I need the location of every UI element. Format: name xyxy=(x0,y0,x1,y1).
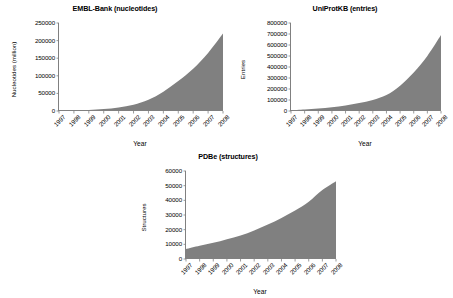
x-tick: 2004 xyxy=(275,262,289,276)
x-tick: 2002 xyxy=(248,262,262,276)
x-axis-label-uniprotkb: Year xyxy=(290,140,440,147)
x-tick: 2003 xyxy=(142,114,156,128)
area-series-uniprotkb xyxy=(291,23,441,111)
area-series-pdbe xyxy=(186,171,336,259)
area-series-embl-bank xyxy=(59,23,223,111)
x-tick: 2002 xyxy=(127,114,141,128)
x-tick: 2007 xyxy=(202,114,216,128)
x-tick: 1999 xyxy=(312,114,326,128)
x-tick: 1998 xyxy=(194,262,208,276)
chart-title-embl-bank: EMBL-Bank (nucleotides) xyxy=(20,4,210,13)
y-tick: 100000 xyxy=(35,73,55,79)
area-path-pdbe xyxy=(186,181,336,259)
y-tick: 40000 xyxy=(165,197,182,203)
chart-panel-pdbe: PDBe (structures) Structures 60000 50000… xyxy=(110,152,350,298)
y-tick-labels-pdbe: 60000 50000 40000 30000 20000 10000 0 xyxy=(110,171,182,259)
area-path-uniprotkb xyxy=(291,35,441,111)
chart-title-pdbe: PDBe (structures) xyxy=(138,152,318,161)
x-tick: 1999 xyxy=(207,262,221,276)
x-tick: 2006 xyxy=(187,114,201,128)
x-tick: 1999 xyxy=(83,114,97,128)
y-tick: 60000 xyxy=(165,168,182,174)
x-tick: 1997 xyxy=(180,262,194,276)
x-tick: 1997 xyxy=(53,114,67,128)
y-tick-labels-embl-bank: 250000 200000 150000 100000 50000 0 xyxy=(0,23,55,111)
y-tick: 50000 xyxy=(165,183,182,189)
x-tick: 1997 xyxy=(285,114,299,128)
y-tick: 20000 xyxy=(165,227,182,233)
x-tick: 2008 xyxy=(330,262,344,276)
x-tick: 2008 xyxy=(435,114,449,128)
plot-area-uniprotkb xyxy=(290,23,440,111)
x-tick: 2006 xyxy=(303,262,317,276)
y-tick: 100000 xyxy=(267,97,287,103)
y-tick: 0 xyxy=(52,108,55,114)
x-tick: 2004 xyxy=(380,114,394,128)
x-axis-label-embl-bank: Year xyxy=(58,140,222,147)
x-tick: 2005 xyxy=(289,262,303,276)
x-tick: 1998 xyxy=(299,114,313,128)
chart-title-uniprotkb: UniProtKB (entries) xyxy=(255,4,435,13)
y-tick: 30000 xyxy=(165,212,182,218)
plot-wrap-uniprotkb: Entries 800000 700000 600000 500000 4000… xyxy=(225,18,453,150)
plot-area-embl-bank xyxy=(58,23,222,111)
x-tick: 2001 xyxy=(113,114,127,128)
x-tick: 2000 xyxy=(221,262,235,276)
x-axis-label-pdbe: Year xyxy=(185,288,335,295)
x-tick: 2000 xyxy=(326,114,340,128)
area-path-embl-bank xyxy=(59,34,223,111)
y-tick: 50000 xyxy=(38,90,55,96)
y-tick: 800000 xyxy=(267,20,287,26)
plot-area-pdbe xyxy=(185,171,335,259)
y-tick: 0 xyxy=(179,256,182,262)
y-tick: 10000 xyxy=(165,241,182,247)
y-tick: 400000 xyxy=(267,64,287,70)
x-tick: 2001 xyxy=(234,262,248,276)
y-tick: 700000 xyxy=(267,31,287,37)
x-tick: 2004 xyxy=(157,114,171,128)
y-tick: 200000 xyxy=(35,37,55,43)
y-tick: 150000 xyxy=(35,55,55,61)
y-tick: 500000 xyxy=(267,53,287,59)
y-tick: 600000 xyxy=(267,42,287,48)
chart-panel-embl-bank: EMBL-Bank (nucleotides) Nucleotides (mil… xyxy=(0,4,228,150)
chart-panel-uniprotkb: UniProtKB (entries) Entries 800000 70000… xyxy=(225,4,453,150)
x-tick: 2002 xyxy=(353,114,367,128)
y-tick: 250000 xyxy=(35,20,55,26)
y-tick: 200000 xyxy=(267,86,287,92)
plot-wrap-pdbe: Structures 60000 50000 40000 30000 20000… xyxy=(110,166,350,298)
y-tick: 300000 xyxy=(267,75,287,81)
x-tick: 2003 xyxy=(262,262,276,276)
x-tick: 2005 xyxy=(172,114,186,128)
x-tick: 2003 xyxy=(367,114,381,128)
x-tick: 2007 xyxy=(316,262,330,276)
y-tick: 0 xyxy=(284,108,287,114)
y-tick-labels-uniprotkb: 800000 700000 600000 500000 400000 30000… xyxy=(225,23,287,111)
x-tick: 2000 xyxy=(98,114,112,128)
x-tick: 1998 xyxy=(68,114,82,128)
x-tick: 2005 xyxy=(394,114,408,128)
x-tick: 2006 xyxy=(408,114,422,128)
x-tick: 2001 xyxy=(339,114,353,128)
plot-wrap-embl-bank: Nucleotides (million) 250000 200000 1500… xyxy=(0,18,228,150)
x-tick: 2007 xyxy=(421,114,435,128)
